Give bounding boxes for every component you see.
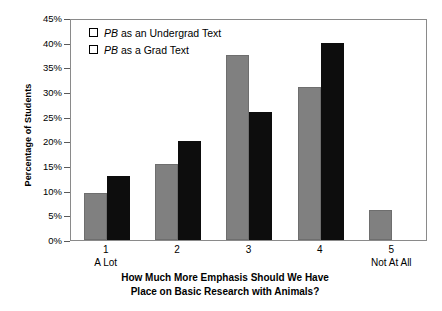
y-tick-mark [64,68,70,69]
x-tick-number: 5 [351,244,431,256]
legend-label-undergrad-italic: PB [104,27,118,39]
y-tick-label: 30% [30,88,62,98]
chart-legend: PB as an Undergrad Text PB as a Grad Tex… [89,25,221,59]
legend-label-undergrad: PB as an Undergrad Text [104,27,221,39]
bar-group [214,20,285,240]
y-tick-mark [64,192,70,193]
x-axis-title-line2: Place on Basic Research with Animals? [131,286,320,297]
y-tick-mark [64,93,70,94]
plot-inner: PB as an Undergrad Text PB as a Grad Tex… [71,20,426,240]
x-tick-number: 4 [280,244,360,256]
x-tick-5: 5Not At All [351,244,431,269]
plot-area: PB as an Undergrad Text PB as a Grad Tex… [70,19,427,241]
x-tick-3: 3 [209,244,289,256]
x-tick-number: 2 [137,244,217,256]
y-tick-label: 5% [30,211,62,221]
y-axis-tick-labels: 45%40%35%30%25%20%15%10%5%0% [30,19,62,241]
y-tick-label: 0% [30,236,62,246]
y-tick-mark [64,44,70,45]
x-axis-title: How Much More Emphasis Should We Have Pl… [30,271,420,299]
y-tick-mark [64,241,70,242]
bar-grad [321,43,344,240]
y-tick-mark [64,142,70,143]
bar-undergrad [226,55,249,240]
bar-undergrad [369,210,392,240]
legend-label-grad: PB as a Grad Text [104,44,189,56]
x-tick-anchor: Not At All [351,256,431,269]
x-tick-1: 1A Lot [66,244,146,269]
bar-chart-figure: Percentage of Students 45%40%35%30%25%20… [0,0,442,311]
legend-label-grad-italic: PB [104,44,118,56]
bar-group [357,20,428,240]
y-tick-label: 10% [30,187,62,197]
bar-undergrad [155,164,178,240]
y-tick-label: 35% [30,63,62,73]
y-tick-mark [64,19,70,20]
legend-item-grad: PB as a Grad Text [89,42,221,57]
y-tick-label: 45% [30,14,62,24]
y-tick-label: 25% [30,113,62,123]
bar-grad [249,112,272,240]
x-tick-anchor: A Lot [66,256,146,269]
y-tick-mark [64,216,70,217]
bar-undergrad [84,193,107,240]
legend-item-undergrad: PB as an Undergrad Text [89,25,221,40]
y-tick-mark [64,167,70,168]
bar-grad [107,176,130,240]
x-axis-title-line1: How Much More Emphasis Should We Have [121,272,329,283]
x-tick-4: 4 [280,244,360,256]
legend-label-grad-rest: as a Grad Text [118,44,189,56]
x-tick-number: 3 [209,244,289,256]
y-tick-label: 15% [30,162,62,172]
y-tick-mark [64,118,70,119]
x-tick-2: 2 [137,244,217,256]
legend-swatch-undergrad [89,28,98,37]
y-tick-label: 40% [30,39,62,49]
legend-swatch-grad [89,45,98,54]
x-tick-number: 1 [66,244,146,256]
bar-undergrad [298,87,321,240]
legend-label-undergrad-rest: as an Undergrad Text [118,27,221,39]
y-tick-label: 20% [30,137,62,147]
bar-grad [178,141,201,240]
bar-group [285,20,356,240]
